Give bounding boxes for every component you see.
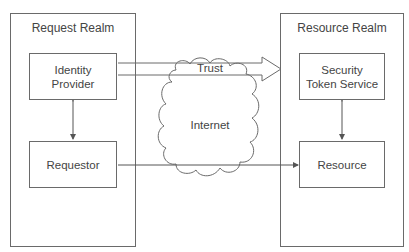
resource-node: Resource	[299, 141, 385, 188]
sts-label-2: Token Service	[306, 77, 378, 91]
requestor-node: Requestor	[29, 141, 117, 188]
internet-label: Internet	[185, 119, 235, 131]
resource-label: Resource	[317, 158, 366, 172]
identity-provider-node: Identity Provider	[29, 53, 117, 100]
identity-provider-label-1: Identity	[54, 63, 91, 77]
security-token-service-node: Security Token Service	[299, 53, 385, 100]
trust-label: Trust	[180, 62, 240, 74]
identity-provider-label-2: Provider	[52, 77, 95, 91]
requestor-label: Requestor	[46, 158, 99, 172]
sts-label-1: Security	[321, 63, 363, 77]
internet-cloud-icon	[158, 58, 259, 176]
